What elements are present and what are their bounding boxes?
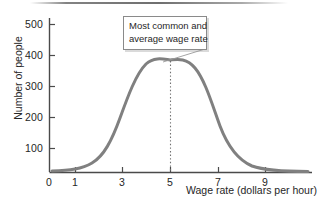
x-tick-label-0: 0 <box>46 176 52 188</box>
y-tick-label-100: 100 <box>25 142 43 154</box>
y-tick-label-200: 200 <box>25 111 43 123</box>
annotation-line-2: average wage rate <box>129 33 202 46</box>
y-axis-label: Number of people <box>12 29 24 127</box>
wage-rate-distribution-chart: 500 400 300 200 100 0 1 3 5 7 9 Number o… <box>0 0 328 204</box>
y-axis-ticks <box>50 25 56 149</box>
x-tick-label-3: 3 <box>119 176 125 188</box>
y-tick-label-300: 300 <box>25 80 43 92</box>
y-tick-label-500: 500 <box>25 18 43 30</box>
x-tick-label-5: 5 <box>167 176 173 188</box>
annotation-line-1: Most common and <box>129 20 202 33</box>
x-axis-label: Wage rate (dollars per hour) <box>186 184 317 196</box>
x-tick-label-1: 1 <box>72 176 78 188</box>
annotation-callout-box: Most common and average wage rate <box>123 16 207 50</box>
distribution-curve <box>52 59 308 172</box>
y-tick-label-400: 400 <box>25 49 43 61</box>
